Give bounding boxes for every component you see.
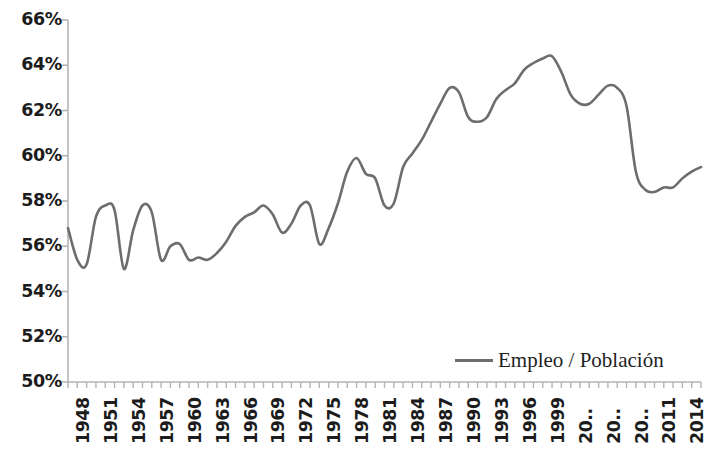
chart-legend: Empleo / Población	[455, 350, 664, 371]
legend-line-swatch	[455, 359, 493, 362]
x-axis-tick-label: 2014	[689, 397, 707, 444]
x-axis-tick-label: 1978	[354, 397, 372, 444]
x-axis-tick-label: 1990	[466, 397, 484, 444]
x-axis-tick-label: 1948	[75, 397, 93, 444]
x-axis-tick-label: 2011	[661, 397, 679, 444]
employment-population-chart: 66%64%62%60%58%56%54%52%50% 194819511954…	[0, 0, 709, 449]
x-axis-tick-label: 1981	[382, 397, 400, 444]
x-axis-tick-label: 1969	[270, 397, 288, 444]
x-axis-tick-label: 20..	[634, 408, 652, 444]
x-axis-tick-label: 1954	[131, 397, 149, 444]
x-axis-tick-label: 1999	[550, 397, 568, 444]
x-axis-tick-label: 1966	[243, 397, 261, 444]
x-axis-tick-label: 1984	[410, 397, 428, 444]
x-axis-tick-label: 1987	[438, 397, 456, 444]
x-axis-tick-label: 1972	[298, 397, 316, 444]
x-axis-tick-label: 20..	[606, 408, 624, 444]
x-axis-tick-label: 1993	[494, 397, 512, 444]
x-axis-tick-label: 1975	[326, 397, 344, 444]
x-axis-tick-label: 1960	[187, 397, 205, 444]
x-axis-tick-label: 1957	[159, 397, 177, 444]
legend-label: Empleo / Población	[498, 350, 664, 371]
x-axis-tick-label: 1963	[215, 397, 233, 444]
x-axis-tick-labels: 1948195119541957196019631966196919721975…	[0, 0, 709, 449]
x-axis-tick-label: 20..	[578, 408, 596, 444]
x-axis-tick-label: 1996	[522, 397, 540, 444]
x-axis-tick-label: 1951	[103, 397, 121, 444]
